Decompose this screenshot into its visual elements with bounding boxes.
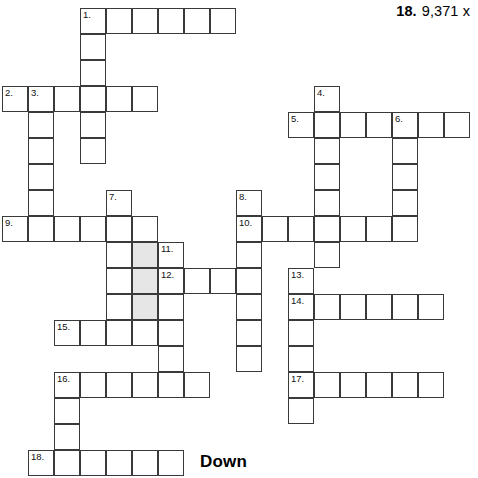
grid-cell[interactable]: [236, 346, 262, 372]
grid-cell[interactable]: [106, 242, 132, 268]
grid-cell[interactable]: [418, 372, 444, 398]
grid-cell[interactable]: 8.: [236, 190, 262, 216]
grid-cell[interactable]: [392, 294, 418, 320]
grid-cell[interactable]: [158, 346, 184, 372]
grid-cell[interactable]: [106, 450, 132, 476]
grid-cell[interactable]: [80, 320, 106, 346]
grid-cell[interactable]: [392, 216, 418, 242]
grid-cell[interactable]: [392, 138, 418, 164]
grid-cell[interactable]: [262, 216, 288, 242]
grid-cell[interactable]: [28, 112, 54, 138]
grid-cell[interactable]: [158, 294, 184, 320]
grid-cell[interactable]: 6.: [392, 112, 418, 138]
grid-cell[interactable]: [236, 320, 262, 346]
grid-cell[interactable]: [288, 346, 314, 372]
grid-cell[interactable]: [366, 216, 392, 242]
grid-cell[interactable]: [392, 164, 418, 190]
grid-cell[interactable]: [80, 450, 106, 476]
grid-cell[interactable]: [106, 216, 132, 242]
grid-cell[interactable]: [54, 398, 80, 424]
grid-cell[interactable]: [392, 372, 418, 398]
grid-cell[interactable]: 4.: [314, 86, 340, 112]
grid-cell[interactable]: [236, 242, 262, 268]
grid-cell[interactable]: [314, 138, 340, 164]
grid-cell[interactable]: [184, 372, 210, 398]
grid-cell[interactable]: [392, 190, 418, 216]
grid-cell[interactable]: [236, 268, 262, 294]
grid-cell[interactable]: [132, 86, 158, 112]
grid-cell[interactable]: [80, 60, 106, 86]
grid-cell[interactable]: 12.: [158, 268, 184, 294]
grid-cell[interactable]: [132, 320, 158, 346]
grid-cell[interactable]: [80, 216, 106, 242]
grid-cell[interactable]: [340, 216, 366, 242]
grid-cell[interactable]: [184, 8, 210, 34]
grid-cell[interactable]: [132, 8, 158, 34]
grid-cell[interactable]: [106, 86, 132, 112]
grid-cell[interactable]: [28, 190, 54, 216]
grid-cell[interactable]: [80, 138, 106, 164]
grid-cell[interactable]: [210, 8, 236, 34]
grid-cell[interactable]: [158, 320, 184, 346]
grid-cell[interactable]: [288, 216, 314, 242]
grid-cell[interactable]: [132, 450, 158, 476]
grid-cell[interactable]: [314, 190, 340, 216]
grid-cell[interactable]: [80, 112, 106, 138]
grid-cell[interactable]: [314, 242, 340, 268]
grid-cell[interactable]: [106, 268, 132, 294]
grid-cell[interactable]: 11.: [158, 242, 184, 268]
grid-cell[interactable]: [444, 112, 470, 138]
grid-cell[interactable]: [340, 372, 366, 398]
grid-cell[interactable]: 3.: [28, 86, 54, 112]
grid-cell[interactable]: [80, 372, 106, 398]
grid-cell[interactable]: [132, 294, 158, 320]
grid-cell[interactable]: [366, 294, 392, 320]
grid-cell[interactable]: 9.: [2, 216, 28, 242]
grid-cell[interactable]: [288, 320, 314, 346]
grid-cell[interactable]: [54, 424, 80, 450]
grid-cell[interactable]: [314, 164, 340, 190]
grid-cell[interactable]: [80, 34, 106, 60]
grid-cell[interactable]: [210, 268, 236, 294]
grid-cell[interactable]: [288, 398, 314, 424]
grid-cell[interactable]: [314, 112, 340, 138]
grid-cell[interactable]: 13.: [288, 268, 314, 294]
grid-cell[interactable]: [54, 86, 80, 112]
grid-cell[interactable]: [132, 242, 158, 268]
grid-cell[interactable]: [80, 86, 106, 112]
grid-cell[interactable]: 16.: [54, 372, 80, 398]
grid-cell[interactable]: [184, 268, 210, 294]
grid-cell[interactable]: [132, 372, 158, 398]
grid-cell[interactable]: 5.: [288, 112, 314, 138]
grid-cell[interactable]: [366, 372, 392, 398]
grid-cell[interactable]: [28, 216, 54, 242]
grid-cell[interactable]: 15.: [54, 320, 80, 346]
grid-cell[interactable]: [314, 372, 340, 398]
grid-cell[interactable]: [106, 320, 132, 346]
grid-cell[interactable]: [106, 294, 132, 320]
grid-cell[interactable]: [418, 294, 444, 320]
grid-cell[interactable]: [106, 372, 132, 398]
grid-cell[interactable]: [132, 268, 158, 294]
grid-cell[interactable]: [158, 372, 184, 398]
grid-cell[interactable]: 10.: [236, 216, 262, 242]
grid-cell[interactable]: [340, 294, 366, 320]
grid-cell[interactable]: 7.: [106, 190, 132, 216]
grid-cell[interactable]: 18.: [28, 450, 54, 476]
grid-cell[interactable]: [340, 112, 366, 138]
grid-cell[interactable]: 14.: [288, 294, 314, 320]
grid-cell[interactable]: [28, 164, 54, 190]
grid-cell[interactable]: [366, 112, 392, 138]
grid-cell[interactable]: [132, 216, 158, 242]
grid-cell[interactable]: 1.: [80, 8, 106, 34]
grid-cell[interactable]: 17.: [288, 372, 314, 398]
grid-cell[interactable]: [158, 8, 184, 34]
grid-cell[interactable]: [418, 112, 444, 138]
grid-cell[interactable]: [314, 216, 340, 242]
grid-cell[interactable]: 2.: [2, 86, 28, 112]
crossword-grid[interactable]: 1.2.3.4.5.6.7.8.9.10.11.12.13.14.15.16.1…: [0, 0, 478, 478]
grid-cell[interactable]: [314, 294, 340, 320]
grid-cell[interactable]: [28, 138, 54, 164]
grid-cell[interactable]: [236, 294, 262, 320]
grid-cell[interactable]: [158, 450, 184, 476]
